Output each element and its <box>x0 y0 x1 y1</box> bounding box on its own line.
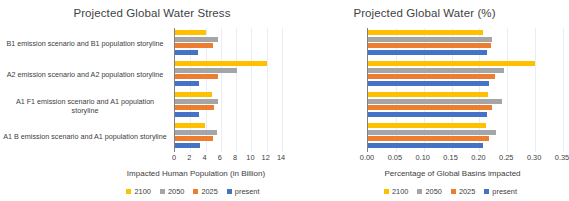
legend-label-2050: 2050 <box>168 187 184 196</box>
plot-area-right <box>367 28 563 152</box>
legend-item-present[interactable]: present <box>227 187 260 196</box>
bar-2025 <box>368 74 495 79</box>
axis-tick-label: 2 <box>187 153 191 162</box>
bar-present <box>368 50 487 55</box>
legend-item-2100[interactable]: 2100 <box>126 187 150 196</box>
axis-tick-label: 0.20 <box>471 153 485 162</box>
axis-tick-label: 0.15 <box>443 153 457 162</box>
legend-item-2100[interactable]: 2100 <box>384 187 408 196</box>
axis-spacer-left <box>0 152 174 166</box>
bar-2050 <box>368 37 492 42</box>
gridline <box>563 28 564 152</box>
legend-left: 2100 2050 2025 present <box>104 187 282 196</box>
chart-panel-water-percent: Projected Global Water (%) B1 emission s… <box>282 0 563 201</box>
category-label: A2 emission scenario and A2 population s… <box>0 59 170 90</box>
bar-2025 <box>175 74 218 79</box>
axis-tick-label: 0 <box>172 153 176 162</box>
legend-label-2100: 2100 <box>134 187 150 196</box>
legend-swatch-2050 <box>417 189 422 194</box>
axis-ticks-right: 0.000.050.100.150.200.250.300.35 <box>367 152 563 164</box>
plot-wrap-left: B1 emission scenario and B1 population s… <box>0 28 282 196</box>
category-axis-left: B1 emission scenario and B1 population s… <box>0 28 174 152</box>
axis-title-left: Impacted Human Population (in Billion) <box>110 169 282 178</box>
legend-swatch-present <box>484 189 489 194</box>
legend-item-present[interactable]: present <box>484 187 517 196</box>
chart-title-right: Projected Global Water (%) <box>282 0 563 19</box>
bar-group <box>175 28 282 59</box>
axis-tick-label: 12 <box>262 153 270 162</box>
bar-present <box>368 143 483 148</box>
legend-swatch-2100 <box>384 189 389 194</box>
bar-2050 <box>368 99 502 104</box>
bar-group <box>368 28 563 59</box>
bar-group <box>368 121 563 152</box>
bar-2100 <box>368 92 488 97</box>
bar-2100 <box>175 123 205 128</box>
bar-group <box>175 59 282 90</box>
axis-tick-label: 10 <box>246 153 254 162</box>
bar-group <box>175 121 282 152</box>
legend-swatch-2025 <box>193 189 198 194</box>
bar-group <box>368 90 563 121</box>
legend-swatch-2050 <box>160 189 165 194</box>
chart-title-left: Projected Global Water Stress <box>0 0 282 19</box>
bar-present <box>368 81 489 86</box>
legend-item-2025[interactable]: 2025 <box>451 187 475 196</box>
axis-row-left: 02468101214 <box>0 152 282 166</box>
axis-title-right: Percentage of Global Basins impacted <box>342 169 563 178</box>
legend-item-2050[interactable]: 2050 <box>160 187 184 196</box>
bar-present <box>175 50 198 55</box>
bar-2100 <box>368 61 535 66</box>
category-label: B1 emission scenario and B1 population s… <box>0 28 170 59</box>
axis-tick-label: 0.00 <box>360 153 374 162</box>
bar-2050 <box>175 99 218 104</box>
legend-label-present: present <box>492 187 517 196</box>
legend-item-2050[interactable]: 2050 <box>417 187 441 196</box>
bar-2050 <box>175 37 218 42</box>
category-axis-right: B1 emission scenario and B1 population s… <box>282 28 367 152</box>
legend-label-2025: 2025 <box>459 187 475 196</box>
legend-swatch-2025 <box>451 189 456 194</box>
bar-2025 <box>175 43 213 48</box>
legend-swatch-2100 <box>126 189 131 194</box>
legend-item-2025[interactable]: 2025 <box>193 187 217 196</box>
bar-2100 <box>368 123 486 128</box>
plot-wrap-right: B1 emission scenario and B1 population s… <box>282 28 563 196</box>
axis-tick-label: 8 <box>233 153 237 162</box>
bar-2100 <box>368 30 483 35</box>
bar-2025 <box>368 136 489 141</box>
bar-2025 <box>368 105 492 110</box>
bar-2100 <box>175 92 212 97</box>
value-axis-left: 02468101214 <box>174 152 282 166</box>
legend-label-2050: 2050 <box>425 187 441 196</box>
bar-2025 <box>175 105 214 110</box>
bar-group <box>368 59 563 90</box>
bar-2100 <box>175 61 267 66</box>
bar-2050 <box>175 130 217 135</box>
axis-tick-label: 6 <box>218 153 222 162</box>
axis-tick-label: 0.05 <box>388 153 402 162</box>
chart-panel-water-stress: Projected Global Water Stress B1 emissio… <box>0 0 282 201</box>
bar-2025 <box>175 136 213 141</box>
axis-tick-label: 0.35 <box>555 153 569 162</box>
value-axis-right: 0.000.050.100.150.200.250.300.35 <box>367 152 563 166</box>
legend-label-present: present <box>235 187 260 196</box>
axis-spacer-right <box>282 152 367 166</box>
plot-row-left: B1 emission scenario and B1 population s… <box>0 28 282 152</box>
axis-row-right: 0.000.050.100.150.200.250.300.35 <box>282 152 563 166</box>
legend-label-2100: 2100 <box>392 187 408 196</box>
bar-2025 <box>368 43 491 48</box>
plot-row-right: B1 emission scenario and B1 population s… <box>282 28 563 152</box>
category-label: A1 B emission scenario and A1 population… <box>0 121 170 152</box>
bar-present <box>175 112 199 117</box>
axis-ticks-left: 02468101214 <box>174 152 282 164</box>
bar-group <box>175 90 282 121</box>
bar-2050 <box>175 68 237 73</box>
axis-tick-label: 0.10 <box>416 153 430 162</box>
axis-tick-label: 4 <box>203 153 207 162</box>
bar-present <box>175 143 200 148</box>
bar-present <box>175 81 199 86</box>
bar-2100 <box>175 30 206 35</box>
legend-right: 2100 2050 2025 present <box>338 187 563 196</box>
